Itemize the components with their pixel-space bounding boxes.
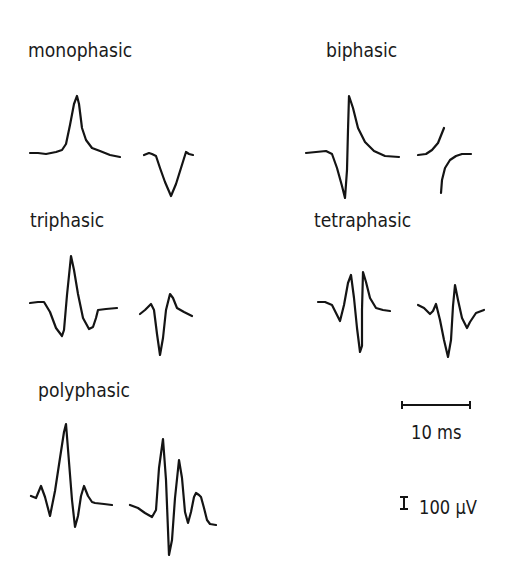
polyphasic-waveform-1	[31, 424, 112, 527]
waveform-group	[30, 96, 484, 555]
biphasic-waveform-2	[418, 128, 444, 155]
time-scale-label: 10 ms	[411, 423, 461, 442]
tetraphasic-waveform-1	[318, 272, 390, 352]
monophasic-waveform-2	[144, 152, 193, 196]
amplitude-scale-label: 100 µV	[419, 498, 477, 517]
biphasic-waveform-3	[441, 154, 471, 193]
triphasic-waveform-1	[30, 256, 117, 336]
tetraphasic-waveform-2	[418, 285, 484, 357]
polyphasic-waveform-2	[130, 439, 216, 555]
monophasic-waveform-1	[30, 96, 120, 157]
triphasic-waveform-2	[140, 294, 192, 355]
waveform-traces	[0, 0, 517, 572]
biphasic-waveform-1	[306, 96, 399, 198]
